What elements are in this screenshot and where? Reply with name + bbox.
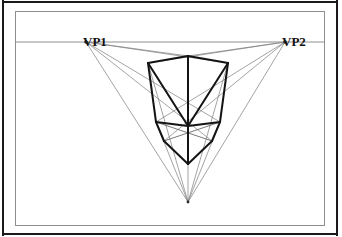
edge-topleft-midfront (148, 63, 188, 126)
ray-vp1-to-vp3 (86, 42, 188, 202)
page-outer-border-top (2, 1, 338, 3)
ray-vp3-to-top-right (188, 63, 228, 202)
vp2-label: VP2 (282, 35, 306, 48)
edge-topfront-topright (188, 56, 228, 63)
edge-midleft-botleft (156, 122, 164, 141)
figure-frame: VP1 VP2 (15, 11, 325, 226)
edge-topright-midfront (188, 63, 228, 126)
ray-vp2-to-vp3 (188, 42, 285, 202)
vp3-dot (187, 201, 190, 204)
edge-midright-botright (212, 122, 220, 141)
perspective-drawing (16, 12, 324, 225)
figure-page: VP1 VP2 (0, 0, 342, 237)
ray-vp3-to-top-left (148, 63, 188, 202)
vp1-label: VP1 (83, 35, 107, 48)
box-edges (148, 56, 228, 164)
page-outer-border-bottom (2, 233, 338, 235)
edge-topfront-topleft (148, 56, 188, 63)
